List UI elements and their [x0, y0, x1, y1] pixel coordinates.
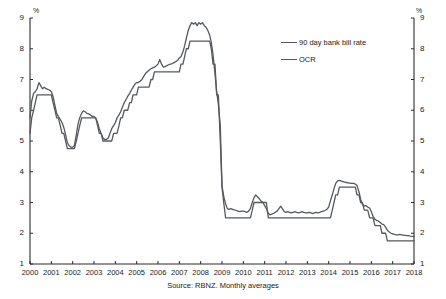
y-tick-label-left: 5	[4, 137, 24, 145]
y-tick-label-left: 9	[4, 14, 24, 22]
legend-label: OCR	[299, 55, 316, 64]
legend-item[interactable]: OCR	[281, 55, 366, 64]
chart-plot-area	[0, 0, 446, 299]
legend-swatch-icon	[281, 42, 297, 43]
y-axis-unit-left: %	[33, 7, 39, 14]
y-tick-label-left: 8	[4, 45, 24, 53]
y-tick-label-right: 8	[420, 45, 440, 53]
y-tick-label-right: 2	[420, 229, 440, 237]
y-tick-label-right: 4	[420, 168, 440, 176]
legend-label: 90 day bank bill rate	[299, 38, 366, 47]
y-tick-label-left: 6	[4, 106, 24, 114]
legend-item[interactable]: 90 day bank bill rate	[281, 38, 366, 47]
y-tick-label-right: 9	[420, 14, 440, 22]
y-tick-label-right: 3	[420, 199, 440, 207]
y-tick-label-left: 7	[4, 76, 24, 84]
y-tick-label-left: 4	[4, 168, 24, 176]
chart-container: 1122334455667788992000200120022003200420…	[0, 0, 446, 299]
y-axis-unit-right: %	[416, 7, 422, 14]
y-tick-label-left: 3	[4, 199, 24, 207]
y-tick-label-right: 6	[420, 106, 440, 114]
y-tick-label-right: 5	[420, 137, 440, 145]
legend-swatch-icon	[281, 59, 297, 60]
x-tick-label: 2018	[400, 269, 428, 277]
y-tick-label-right: 7	[420, 76, 440, 84]
y-tick-label-left: 1	[4, 260, 24, 268]
y-tick-label-right: 1	[420, 260, 440, 268]
chart-legend: 90 day bank bill rateOCR	[281, 38, 366, 72]
y-tick-label-left: 2	[4, 229, 24, 237]
source-note: Source: RBNZ. Monthly averages	[0, 281, 446, 290]
